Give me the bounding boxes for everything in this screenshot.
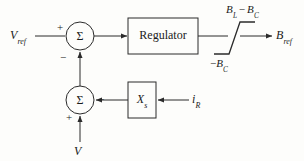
input-label-v: V: [74, 145, 81, 157]
bottom-summer-sigma: Σ: [72, 94, 88, 106]
vref-symbol: V: [10, 28, 17, 42]
top-summer-sigma: Σ: [72, 30, 88, 42]
bref-subscript: ref: [284, 37, 293, 46]
upper-bound-subtrahend-subscript: C: [254, 12, 259, 20]
slope-reactance-block-label: Xs: [128, 93, 156, 108]
output-label-bref: Bref: [276, 29, 292, 44]
top-summer-bottom-sign: −: [60, 52, 66, 63]
lower-bound-symbol: B: [216, 57, 223, 69]
upper-bound-minuend-subscript: L: [233, 12, 237, 20]
lower-bound-subscript: C: [223, 66, 228, 74]
ir-symbol: i: [192, 92, 195, 106]
upper-bound-subtrahend: B: [247, 3, 254, 15]
upper-bound-minuend: B: [226, 3, 233, 15]
input-label-ir: iR: [192, 93, 200, 108]
bref-symbol: B: [276, 28, 283, 42]
limiter-saturation-curve: [214, 22, 255, 54]
diagram-vector-layer: [0, 0, 304, 161]
block-diagram-canvas: Σ Σ + − − + Regulator Xs Vref V iR Bref …: [0, 0, 304, 161]
top-summer-left-sign: +: [57, 22, 63, 33]
bottom-summer-right-sign: −: [98, 94, 104, 105]
bottom-summer-bottom-sign: +: [66, 112, 72, 123]
vref-subscript: ref: [18, 37, 27, 46]
upper-bound-operator: −: [237, 3, 247, 15]
input-label-vref: Vref: [10, 29, 26, 44]
limiter-lower-bound-label: −BC: [210, 58, 228, 72]
limiter-upper-bound-label: BL−BC: [226, 4, 259, 18]
regulator-block-label: Regulator: [128, 29, 198, 41]
v-symbol: V: [74, 144, 81, 158]
ir-subscript: R: [196, 101, 201, 110]
slope-reactance-subscript: s: [144, 101, 147, 110]
